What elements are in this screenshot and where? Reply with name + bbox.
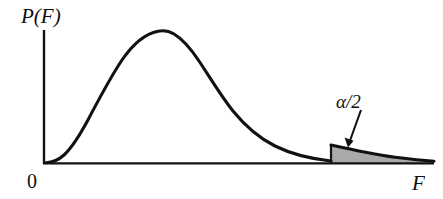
origin-label: 0 [27, 170, 37, 192]
y-axis-label: P(F) [20, 4, 61, 28]
density-curve [46, 31, 331, 163]
x-axis-label: F [411, 171, 425, 195]
f-distribution-figure: P(F) F 0 α/2 [0, 0, 443, 199]
distribution-plot: P(F) F 0 α/2 [0, 0, 443, 199]
tail-annotation-arrow [345, 110, 361, 148]
alpha-over-two-label: α/2 [336, 91, 361, 112]
